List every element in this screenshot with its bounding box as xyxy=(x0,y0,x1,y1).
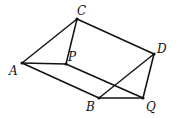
vertex-d xyxy=(152,52,155,55)
edge-a-p xyxy=(22,63,66,64)
label-b: B xyxy=(85,100,95,114)
edge-a-b xyxy=(22,63,99,98)
vertex-a xyxy=(20,61,23,64)
label-a: A xyxy=(8,64,18,78)
label-p: P xyxy=(67,50,77,64)
label-c: C xyxy=(77,4,86,18)
vertices xyxy=(20,17,155,99)
geometry-diagram: A C P D B Q xyxy=(0,0,176,118)
label-d: D xyxy=(156,42,167,56)
vertex-q xyxy=(141,96,144,99)
edges xyxy=(22,19,154,98)
edge-c-d xyxy=(77,19,154,54)
vertex-b xyxy=(97,96,100,99)
label-q: Q xyxy=(146,100,156,114)
